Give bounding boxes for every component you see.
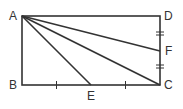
label-d: D (164, 9, 173, 23)
label-b: B (9, 78, 17, 92)
label-e: E (87, 89, 95, 103)
label-a: A (9, 9, 17, 23)
segment-ac (22, 16, 160, 85)
geometry-diagram: A B C D E F (0, 0, 183, 109)
segment-af (22, 16, 160, 51)
segment-ae (22, 16, 91, 85)
label-c: C (164, 78, 173, 92)
label-f: F (165, 44, 172, 58)
